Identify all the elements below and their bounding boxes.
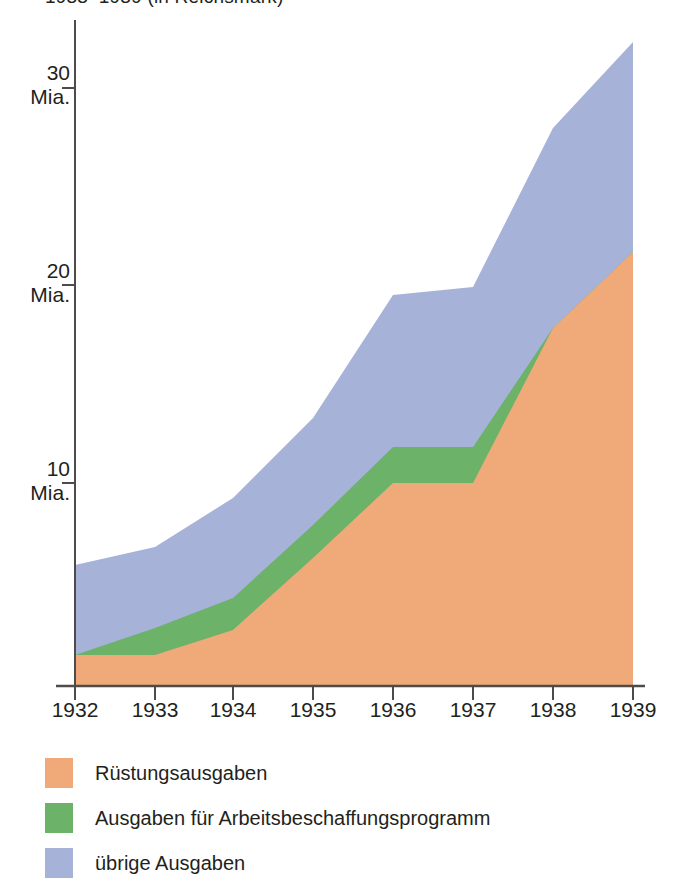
- y-axis-tick-label-10: 10 Mia.: [10, 457, 70, 505]
- legend-label-ruestungsausgaben: Rüstungsausgaben: [95, 761, 267, 785]
- y-axis-tick-value-30: 30: [10, 61, 70, 85]
- chart-plot-area: 30 Mia. 20 Mia. 10 Mia. 1932 1933 1934 1…: [0, 0, 678, 720]
- x-axis-tick-label-1939: 1939: [593, 697, 673, 722]
- legend-swatch-uebrige-ausgaben: [45, 848, 73, 878]
- legend-label-arbeitsbeschaffungsprogramm: Ausgaben für Arbeitsbeschaffungsprogramm: [95, 806, 490, 830]
- x-axis-tick-label-1933: 1933: [115, 697, 195, 722]
- y-axis-tick-label-30: 30 Mia.: [10, 61, 70, 109]
- x-axis-tick-label-1935: 1935: [273, 697, 353, 722]
- legend-swatch-ruestungsausgaben: [45, 758, 73, 788]
- legend-item-ruestungsausgaben: Rüstungsausgaben: [45, 752, 665, 793]
- x-axis-tick-label-1938: 1938: [513, 697, 593, 722]
- legend-item-arbeitsbeschaffungsprogramm: Ausgaben für Arbeitsbeschaffungsprogramm: [45, 797, 665, 838]
- chart-legend: Rüstungsausgaben Ausgaben für Arbeitsbes…: [45, 752, 665, 882]
- x-axis-tick-label-1937: 1937: [433, 697, 513, 722]
- y-axis-tick-value-10: 10: [10, 457, 70, 481]
- y-axis-tick-unit-10: Mia.: [10, 481, 70, 505]
- x-axis-tick-label-1936: 1936: [353, 697, 433, 722]
- legend-swatch-arbeitsbeschaffungsprogramm: [45, 803, 73, 833]
- legend-item-uebrige-ausgaben: übrige Ausgaben: [45, 842, 665, 882]
- x-axis-tick-label-1932: 1932: [35, 697, 115, 722]
- y-axis-tick-unit-30: Mia.: [10, 85, 70, 109]
- y-axis-tick-value-20: 20: [10, 259, 70, 283]
- y-axis-tick-unit-20: Mia.: [10, 283, 70, 307]
- stacked-area-chart: [0, 0, 678, 720]
- y-axis-tick-label-20: 20 Mia.: [10, 259, 70, 307]
- legend-label-uebrige-ausgaben: übrige Ausgaben: [95, 851, 245, 875]
- x-axis-tick-label-1934: 1934: [193, 697, 273, 722]
